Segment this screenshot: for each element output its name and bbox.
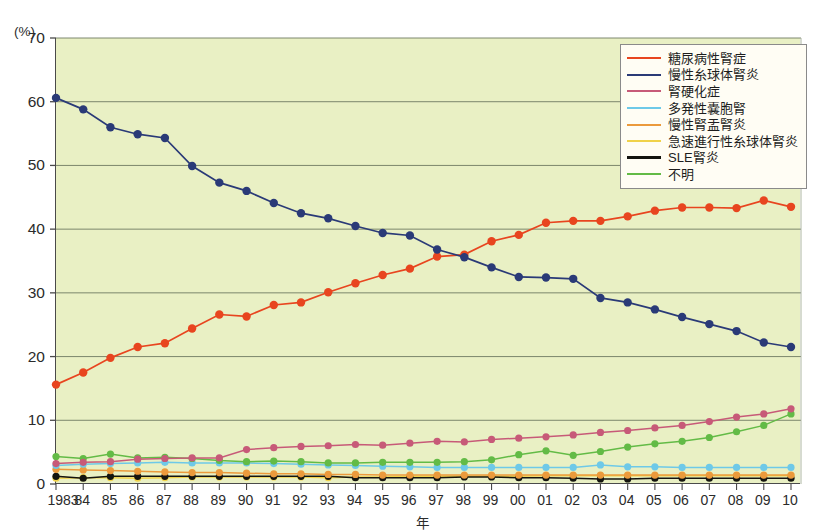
legend-item: 糖尿病性腎症 xyxy=(627,50,798,67)
y-axis-tick-label: 30 xyxy=(5,284,45,302)
data-point xyxy=(542,273,550,281)
legend-swatch-icon xyxy=(627,90,661,92)
data-point xyxy=(733,428,740,435)
data-point xyxy=(352,459,359,466)
data-point xyxy=(679,422,686,429)
data-point xyxy=(189,454,196,461)
data-point xyxy=(651,206,659,214)
legend-swatch-icon xyxy=(627,107,661,109)
data-point xyxy=(760,422,767,429)
data-point xyxy=(80,475,87,482)
x-axis-tick-label: 05 xyxy=(641,492,667,508)
y-axis-tick-label: 70 xyxy=(5,29,45,47)
x-axis-tick-label: 08 xyxy=(723,492,749,508)
data-point xyxy=(133,130,141,138)
data-point xyxy=(624,471,631,478)
data-point xyxy=(679,438,686,445)
data-point xyxy=(297,470,304,477)
data-point xyxy=(488,436,495,443)
data-point xyxy=(624,463,631,470)
data-point xyxy=(488,456,495,463)
data-point xyxy=(706,464,713,471)
data-point xyxy=(733,414,740,421)
data-point xyxy=(188,162,196,170)
data-point xyxy=(678,313,686,321)
data-point xyxy=(733,464,740,471)
x-axis-tick-label: 92 xyxy=(287,492,313,508)
x-axis-tick-label: 07 xyxy=(695,492,721,508)
data-point xyxy=(52,94,60,102)
data-point xyxy=(242,187,250,195)
legend-swatch-icon xyxy=(627,140,661,142)
data-point xyxy=(325,442,332,449)
data-point xyxy=(461,458,468,465)
x-axis-tick-label: 95 xyxy=(369,492,395,508)
data-point xyxy=(106,354,114,362)
x-axis-tick-label: 97 xyxy=(423,492,449,508)
data-point xyxy=(325,459,332,466)
data-point xyxy=(515,435,522,442)
legend-label: 多発性嚢胞腎 xyxy=(668,102,746,115)
x-axis-tick-label: 93 xyxy=(314,492,340,508)
data-point xyxy=(787,464,794,471)
data-point xyxy=(651,440,658,447)
data-point xyxy=(324,288,332,296)
data-point xyxy=(678,203,686,211)
legend-label: 慢性腎盂腎炎 xyxy=(668,118,746,131)
data-point xyxy=(706,471,713,478)
x-axis-tick-label: 09 xyxy=(750,492,776,508)
data-point xyxy=(134,468,141,475)
data-point xyxy=(161,455,168,462)
x-axis-tick-label: 04 xyxy=(614,492,640,508)
data-point xyxy=(596,217,604,225)
data-point xyxy=(732,204,740,212)
data-point xyxy=(80,459,87,466)
data-point xyxy=(379,471,386,478)
data-point xyxy=(487,237,495,245)
data-point xyxy=(623,212,631,220)
data-point xyxy=(597,429,604,436)
data-point xyxy=(760,338,768,346)
x-axis-tick-label: 96 xyxy=(396,492,422,508)
data-point xyxy=(161,134,169,142)
legend-item: 腎硬化症 xyxy=(627,83,798,100)
data-point xyxy=(378,271,386,279)
data-point xyxy=(515,471,522,478)
data-point xyxy=(787,471,794,478)
data-point xyxy=(270,444,277,451)
data-point xyxy=(706,434,713,441)
data-point xyxy=(515,464,522,471)
data-point xyxy=(216,454,223,461)
data-point xyxy=(760,196,768,204)
data-point xyxy=(379,459,386,466)
y-axis-tick-label: 20 xyxy=(5,348,45,366)
data-point xyxy=(107,458,114,465)
x-axis-tick-label: 94 xyxy=(341,492,367,508)
data-point xyxy=(787,405,794,412)
data-point xyxy=(297,443,304,450)
legend-item: 多発性嚢胞腎 xyxy=(627,100,798,117)
data-point xyxy=(760,410,767,417)
x-axis-tick-label: 86 xyxy=(124,492,150,508)
series-0 xyxy=(52,196,795,389)
legend-swatch-icon xyxy=(627,156,661,159)
x-axis-tick-label: 10 xyxy=(777,492,803,508)
data-point xyxy=(161,339,169,347)
data-point xyxy=(270,457,277,464)
data-point xyxy=(352,471,359,478)
data-point xyxy=(161,468,168,475)
legend-swatch-icon xyxy=(627,74,661,76)
data-point xyxy=(597,461,604,468)
data-point xyxy=(215,310,223,318)
data-point xyxy=(270,470,277,477)
data-point xyxy=(487,263,495,271)
data-point xyxy=(597,448,604,455)
x-axis-tick-label: 87 xyxy=(151,492,177,508)
legend-item: 急速進行性糸球体腎炎 xyxy=(627,133,798,150)
data-point xyxy=(52,473,59,480)
data-point xyxy=(570,452,577,459)
legend-label: 急速進行性糸球体腎炎 xyxy=(668,135,798,148)
data-point xyxy=(569,217,577,225)
legend-item: 慢性腎盂腎炎 xyxy=(627,116,798,133)
